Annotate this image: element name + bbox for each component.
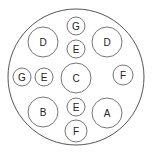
pin-g-left: G xyxy=(13,68,31,86)
pin-b: B xyxy=(28,97,58,127)
pin-e-left: E xyxy=(35,68,53,86)
pin-g-top: G xyxy=(67,17,85,35)
pin-label: E xyxy=(41,72,48,83)
pin-f-right: F xyxy=(113,65,133,85)
pin-label: C xyxy=(72,73,79,84)
pin-label: F xyxy=(120,70,126,81)
pin-a: A xyxy=(92,98,122,128)
pin-label: D xyxy=(103,37,110,48)
pin-d-right: D xyxy=(92,27,122,57)
pin-label: G xyxy=(72,21,80,32)
pin-label: A xyxy=(104,108,111,119)
connector-diagram: D G D E G E C F B E A F xyxy=(0,0,153,154)
pin-e-bottom: E xyxy=(67,98,85,116)
pin-label: E xyxy=(73,44,80,55)
pin-label: E xyxy=(73,102,80,113)
pin-label: F xyxy=(73,126,79,137)
pin-d-left: D xyxy=(28,27,58,57)
pin-label: D xyxy=(39,37,46,48)
pin-label: B xyxy=(40,107,47,118)
pin-e-top: E xyxy=(67,40,85,58)
pin-c-center: C xyxy=(61,63,91,93)
pin-label: G xyxy=(18,72,26,83)
pin-f-bottom: F xyxy=(65,120,87,142)
